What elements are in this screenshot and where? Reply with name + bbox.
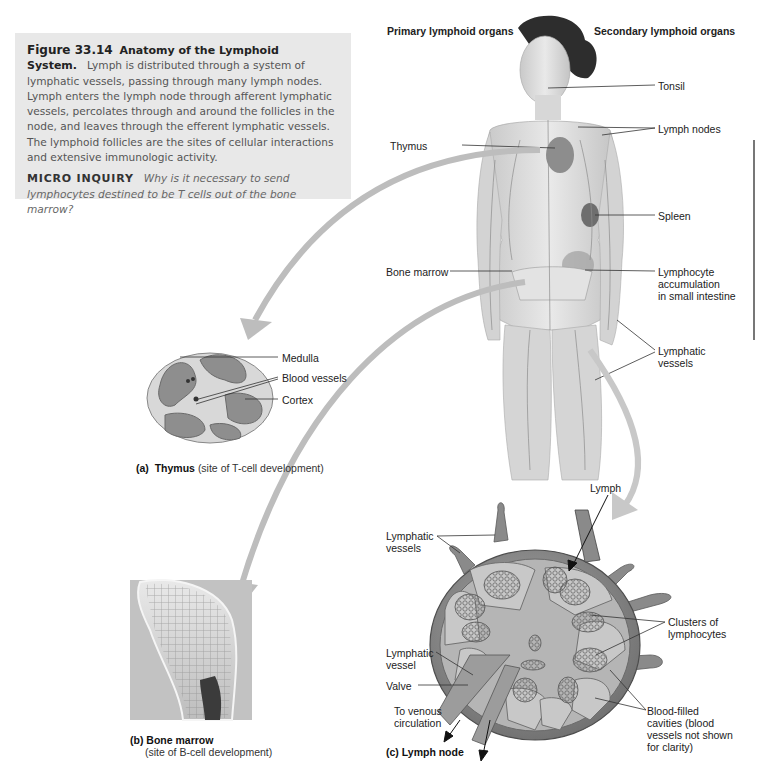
label-valve: Valve [386, 680, 412, 692]
anatomy-illustration [0, 0, 758, 783]
label-lymph-nodes: Lymph nodes [658, 123, 721, 135]
human-figure [477, 16, 624, 480]
label-cortex: Cortex [282, 394, 313, 406]
label-tonsil: Tonsil [658, 80, 685, 92]
thymus-caption: (a) Thymus (site of T-cell development) [136, 462, 324, 474]
label-bone-marrow: Bone marrow [386, 266, 448, 278]
label-lymph: Lymph [590, 482, 621, 494]
label-spleen: Spleen [658, 210, 691, 222]
label-lymphatic-vessel: Lymphatic vessel [386, 647, 433, 671]
page-margin-rule [753, 140, 755, 340]
label-lymphatic-vessels-node: Lymphatic vessels [386, 530, 433, 554]
label-to-venous-circulation: To venous circulation [394, 705, 442, 729]
label-clusters-of-lymphocytes: Clusters of lymphocytes [668, 616, 726, 640]
lymph-node-section [430, 503, 671, 745]
thymus-section [147, 353, 273, 443]
bone-marrow-image [130, 580, 252, 720]
lymph-node-caption: (c) Lymph node [386, 746, 464, 758]
label-blood-vessels: Blood vessels [282, 372, 347, 384]
label-medulla: Medulla [282, 352, 319, 364]
label-lymphatic-vessels-body: Lymphatic vessels [658, 345, 705, 369]
label-lymphocyte-accumulation: Lymphocyte accumulation in small intesti… [658, 266, 736, 302]
label-thymus: Thymus [390, 140, 427, 152]
bone-marrow-caption: (b) Bone marrow (site of B-cell developm… [130, 734, 272, 758]
label-blood-filled-cavities: Blood-filled cavities (blood vessels not… [647, 705, 733, 753]
